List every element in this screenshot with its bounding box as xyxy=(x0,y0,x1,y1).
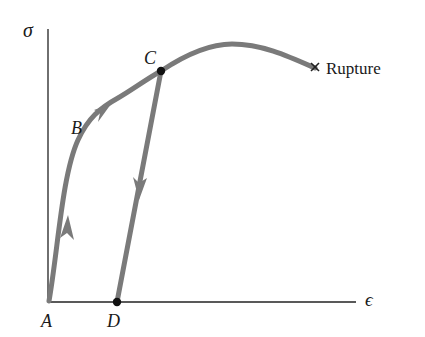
point-c-marker xyxy=(157,67,165,75)
point-d-label: D xyxy=(107,312,120,330)
y-axis-label: σ xyxy=(23,20,33,40)
point-c-label: C xyxy=(144,49,156,67)
stress-strain-diagram xyxy=(0,0,425,337)
loading-curve xyxy=(49,44,315,301)
point-b-label: B xyxy=(71,119,82,137)
x-axis-label: ϵ xyxy=(365,290,373,309)
point-d-marker xyxy=(113,298,121,306)
rupture-label: Rupture xyxy=(326,60,381,77)
point-a-label: A xyxy=(41,312,52,330)
